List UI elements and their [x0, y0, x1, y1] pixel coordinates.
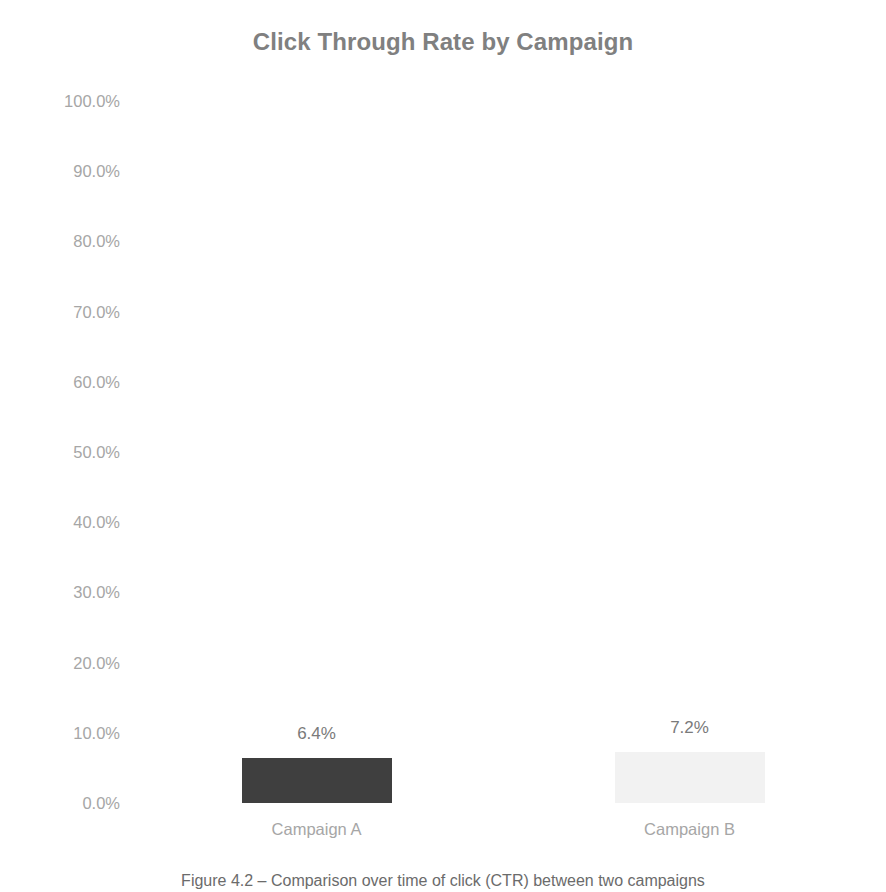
y-axis-tick-label: 40.0%: [10, 513, 120, 532]
bar-campaign-b[interactable]: [615, 752, 765, 803]
y-axis-tick-label: 60.0%: [10, 372, 120, 391]
x-axis-category-label: Campaign A: [222, 820, 412, 839]
y-axis-tick-label: 70.0%: [10, 302, 120, 321]
figure-caption: Figure 4.2 – Comparison over time of cli…: [0, 872, 886, 890]
bar-group: 7.2%: [615, 101, 765, 803]
bar-value-label: 6.4%: [242, 724, 392, 744]
y-axis-tick-label: 50.0%: [10, 443, 120, 462]
y-axis-tick-label: 80.0%: [10, 232, 120, 251]
y-axis-tick-label: 10.0%: [10, 723, 120, 742]
y-axis-tick-label: 100.0%: [10, 92, 120, 111]
x-axis-category-label: Campaign B: [595, 820, 785, 839]
y-axis-tick-label: 20.0%: [10, 653, 120, 672]
y-axis-tick-label: 0.0%: [10, 794, 120, 813]
y-axis-tick-label: 90.0%: [10, 162, 120, 181]
bar-value-label: 7.2%: [615, 718, 765, 738]
y-axis-tick-label: 30.0%: [10, 583, 120, 602]
bar-campaign-a[interactable]: [242, 758, 392, 803]
chart-figure: Click Through Rate by Campaign 100.0%90.…: [0, 0, 886, 892]
bar-group: 6.4%: [242, 101, 392, 803]
plot-area: 6.4%7.2%: [130, 101, 876, 803]
